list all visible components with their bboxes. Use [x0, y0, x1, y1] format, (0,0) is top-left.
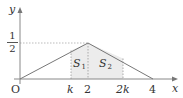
x-tick-k: k	[67, 84, 74, 95]
region-s2-name: S	[99, 57, 107, 70]
region-s1-subscript: 1	[82, 63, 86, 71]
y-tick-denominator: 2	[7, 44, 18, 54]
y-axis-arrow-icon	[18, 7, 23, 13]
y-tick-numerator: 1	[7, 31, 18, 41]
x-tick-2k: 2k	[116, 84, 130, 95]
y-tick-half: 1 2	[7, 31, 18, 54]
region-s1-name: S	[73, 57, 81, 70]
y-axis-label: y	[9, 4, 15, 15]
region-label-s1: S1	[73, 58, 86, 71]
origin-label: O	[11, 84, 20, 95]
x-axis-label: x	[172, 83, 178, 94]
region-s2-subscript: 2	[108, 63, 112, 71]
figure: y x O 1 2 k 2 2k 4 S1 S2	[0, 0, 183, 98]
region-label-s2: S2	[99, 58, 112, 71]
x-tick-2: 2	[84, 84, 91, 95]
x-axis-arrow-icon	[172, 77, 178, 82]
x-tick-4: 4	[149, 84, 156, 95]
